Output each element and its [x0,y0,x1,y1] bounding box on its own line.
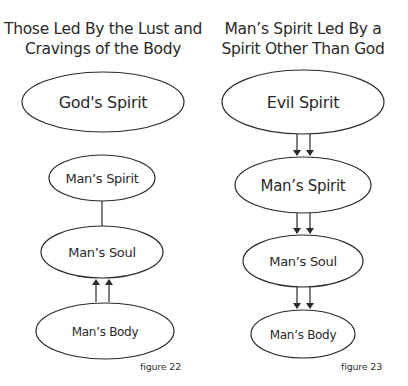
figure-22-title-line-2: Cravings of the Body [25,40,181,58]
node-mans-spirit-label: Man’s Spirit [65,171,138,186]
node-evil-spirit: Evil Spirit [222,70,384,134]
node-gods-spirit-label: God's Spirit [59,93,148,112]
figure-23-title-line-1: Man’s Spirit Led By a [225,20,382,38]
node-mans-body-right-label: Man’s Body [270,328,337,342]
figure-22-caption: figure 22 [140,361,181,372]
figure-23: Man’s Spirit Led By a Spirit Other Than … [221,20,384,372]
node-gods-spirit: God's Spirit [22,72,184,132]
figure-22: Those Led By the Lust and Cravings of th… [3,20,202,372]
node-mans-soul-label: Man’s Soul [68,245,136,260]
node-mans-soul-right: Man’s Soul [243,235,363,287]
node-mans-spirit: Man’s Spirit [49,155,155,201]
figure-22-title-line-1: Those Led By the Lust and [3,20,202,38]
node-mans-soul: Man’s Soul [41,226,163,278]
node-evil-spirit-label: Evil Spirit [267,93,339,112]
node-mans-body-label: Man’s Body [72,325,139,339]
node-mans-spirit-right-label: Man’s Spirit [261,177,346,195]
node-mans-body: Man’s Body [36,303,174,359]
node-mans-spirit-right: Man’s Spirit [235,157,371,213]
node-mans-body-right: Man’s Body [251,310,355,358]
diagram-canvas: Those Led By the Lust and Cravings of th… [0,0,408,386]
node-mans-soul-right-label: Man’s Soul [269,254,337,269]
figure-23-caption: figure 23 [341,361,382,372]
figure-23-title-line-2: Spirit Other Than God [221,40,384,58]
